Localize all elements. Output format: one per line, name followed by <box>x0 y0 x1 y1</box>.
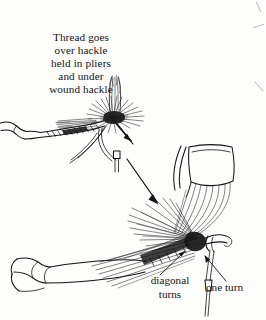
caption-line-4: and under <box>22 70 140 83</box>
diagonal-turns-line-2: turns <box>139 288 201 302</box>
diagonal-turns-line-1: diagonal <box>139 274 201 288</box>
caption-line-5: wound hackle <box>22 83 140 96</box>
upper-hackle-collar <box>87 96 144 133</box>
lower-fly-body <box>44 260 146 283</box>
caption-line-2: over hackle <box>22 44 140 57</box>
label-one-turn: one turn <box>206 281 264 294</box>
lower-hackle-pliers-jaw <box>189 145 234 186</box>
illustration-figure: Thread goes over hackle held in pliers a… <box>0 0 266 320</box>
lower-thorax <box>184 232 207 251</box>
connector-arrow <box>127 159 159 205</box>
page-edge-artifacts <box>254 3 264 92</box>
upper-hook-eye <box>1 122 41 139</box>
caption-line-1: Thread goes <box>22 31 140 44</box>
caption-line-3: held in pliers <box>22 57 140 70</box>
lower-hackle-feather <box>174 182 230 236</box>
label-diagonal-turns: diagonal turns <box>139 274 201 301</box>
instruction-caption: Thread goes over hackle held in pliers a… <box>22 31 140 96</box>
lower-hook-head <box>205 235 232 252</box>
